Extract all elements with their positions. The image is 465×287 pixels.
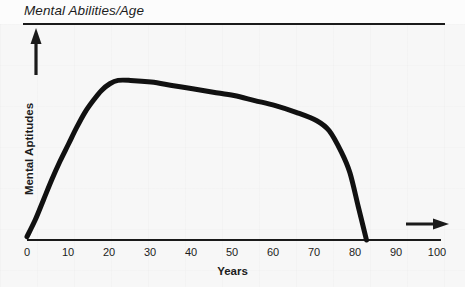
x-tick-70: 70: [299, 246, 329, 258]
chart-plot-area: [0, 0, 465, 287]
arrow-up-icon: [31, 28, 42, 75]
x-axis-label: Years: [0, 265, 465, 277]
x-tick-50: 50: [217, 246, 247, 258]
arrow-right-icon: [406, 219, 449, 230]
x-tick-20: 20: [94, 246, 124, 258]
x-tick-90: 90: [381, 246, 411, 258]
x-tick-80: 80: [340, 246, 370, 258]
y-axis-label: Mental Aptitudes: [23, 84, 35, 214]
x-tick-10: 10: [53, 246, 83, 258]
chart-screenshot: Mental Abilities/Age 0 10 20 30 40 50 60…: [0, 0, 465, 287]
x-tick-40: 40: [176, 246, 206, 258]
x-tick-60: 60: [258, 246, 288, 258]
x-tick-0: 0: [12, 246, 42, 258]
x-tick-100: 100: [422, 246, 452, 258]
x-tick-30: 30: [135, 246, 165, 258]
data-curve-mental-aptitudes: [27, 80, 366, 240]
